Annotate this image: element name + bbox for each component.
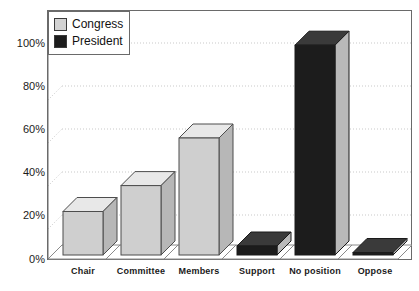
- legend[interactable]: Congress President: [48, 11, 130, 55]
- bar-oppose[interactable]: [353, 239, 407, 256]
- bar-committee[interactable]: [121, 172, 175, 255]
- x-tick-label-chair: Chair: [71, 266, 95, 277]
- x-axis: Chair Committee Members Support No posit…: [0, 266, 419, 282]
- congress-swatch-icon: [54, 18, 67, 31]
- x-tick-label-members: Members: [179, 266, 220, 277]
- bar-no-position-front: [295, 45, 335, 255]
- president-swatch-icon: [54, 35, 67, 48]
- bar-members[interactable]: [179, 124, 233, 255]
- x-tick-label-no-position: No position: [289, 266, 341, 277]
- bar-no-position-side: [335, 31, 349, 255]
- y-axis: 100% 80% 60% 40% 20% 0%: [0, 0, 45, 291]
- y-tick-label-60: 60%: [1, 124, 45, 135]
- bar-support-front: [237, 246, 277, 255]
- bar-oppose-top: [353, 239, 407, 253]
- bar-members-front: [179, 138, 219, 255]
- legend-label-congress: Congress: [72, 18, 123, 31]
- depth-edge-40: [48, 172, 62, 186]
- bar-members-side: [219, 124, 233, 255]
- x-tick-label-support: Support: [239, 266, 275, 277]
- floor-left-edge: [48, 245, 62, 259]
- y-tick-label-20: 20%: [1, 210, 45, 221]
- legend-item-president[interactable]: President: [54, 33, 123, 50]
- bar-oppose-front: [353, 253, 393, 256]
- bar-committee-front: [121, 186, 161, 255]
- y-tick-label-40: 40%: [1, 167, 45, 178]
- bar-chair-front: [63, 212, 103, 256]
- depth-edge-80: [48, 86, 62, 100]
- bar-committee-side: [161, 172, 175, 255]
- x-tick-label-oppose: Oppose: [358, 266, 393, 277]
- y-tick-label-100: 100%: [1, 38, 45, 49]
- x-tick-label-committee: Committee: [117, 266, 165, 277]
- bar-no-position[interactable]: [295, 31, 349, 255]
- depth-edge-60: [48, 129, 62, 143]
- legend-label-president: President: [72, 35, 123, 48]
- bar-chair[interactable]: [63, 198, 117, 256]
- bar-support[interactable]: [237, 232, 291, 255]
- depth-wall: [48, 86, 62, 259]
- legend-item-congress[interactable]: Congress: [54, 16, 123, 33]
- gridlines: [62, 43, 412, 215]
- chart-container: 100% 80% 60% 40% 20% 0% Chair Committee …: [0, 0, 419, 291]
- y-tick-label-0: 0%: [1, 254, 45, 265]
- y-tick-label-80: 80%: [1, 81, 45, 92]
- depth-edge-20: [48, 215, 62, 229]
